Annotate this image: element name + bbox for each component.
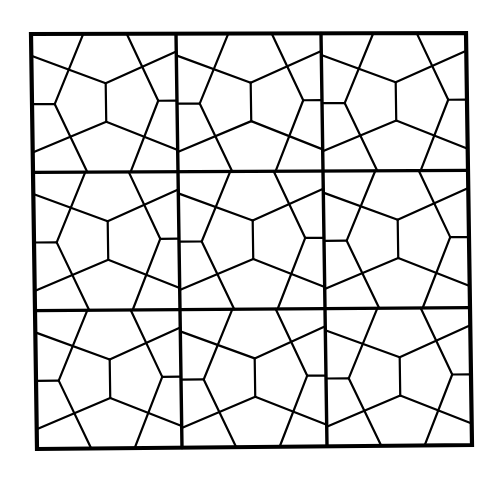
tile-edge — [349, 308, 378, 378]
tile-edge — [278, 238, 306, 309]
tile-edge — [396, 82, 397, 120]
tile-edge — [55, 104, 88, 172]
tile-edge — [347, 241, 380, 309]
tile-edge — [200, 34, 229, 104]
grid-line-horizontal — [35, 308, 470, 311]
tile-edge — [347, 171, 376, 241]
tile-edge — [129, 172, 161, 239]
tile-edge — [110, 327, 181, 359]
tile-edge — [345, 103, 378, 171]
tile-edge — [108, 221, 109, 259]
tile-edge — [55, 34, 84, 104]
tile-edge — [423, 237, 451, 308]
tile-edge — [131, 101, 159, 172]
tile-edge — [345, 33, 374, 103]
tile-edge — [127, 34, 159, 101]
grid-line-horizontal — [33, 170, 468, 172]
tile-edge — [400, 357, 401, 395]
tile-edge — [59, 310, 88, 380]
tile-edge — [421, 100, 449, 171]
tile-edge — [106, 122, 177, 150]
tile-edge — [202, 171, 231, 241]
tile-edge — [251, 83, 252, 121]
tile-edge — [255, 358, 256, 396]
tile-edge — [110, 360, 111, 398]
tiling-figure: Pentagonal tiling on a 3x3 grid — [0, 0, 492, 477]
tile-edge — [276, 100, 304, 171]
tile-edge — [274, 171, 306, 238]
tile-edge — [276, 309, 308, 376]
tile-edge — [425, 375, 453, 446]
tile-edge — [131, 310, 163, 377]
tile-edge — [251, 51, 322, 83]
tile-edge — [421, 308, 453, 375]
tile-edge — [135, 377, 163, 448]
tile-edge — [108, 189, 179, 221]
tile-edge — [200, 104, 233, 172]
tile-edge — [400, 325, 471, 357]
tile-edge — [106, 51, 177, 83]
pentagon-tiling-diagram: Pentagonal tiling on a 3x3 grid — [0, 0, 492, 477]
tile-edge — [253, 189, 324, 221]
tile-edge — [417, 33, 449, 100]
tile-edge — [106, 83, 107, 121]
tile-edge — [253, 221, 254, 259]
tile-edge — [204, 309, 233, 379]
tile-edge — [419, 171, 451, 238]
tile-edge — [133, 239, 161, 310]
tile-edge — [251, 121, 322, 149]
tile-edge — [396, 51, 467, 83]
tile-edge — [57, 242, 90, 310]
tile-edge — [272, 33, 304, 100]
tile-edge — [204, 379, 237, 447]
tile-edge — [398, 188, 469, 220]
tile-edge — [280, 376, 308, 447]
tile-edge — [255, 326, 326, 358]
tile-edge — [57, 172, 86, 242]
tile-edge — [349, 378, 382, 446]
tile-edge — [59, 381, 92, 449]
tile-edge — [202, 242, 235, 310]
tile-edge — [398, 220, 399, 258]
tile-edges — [31, 33, 471, 448]
